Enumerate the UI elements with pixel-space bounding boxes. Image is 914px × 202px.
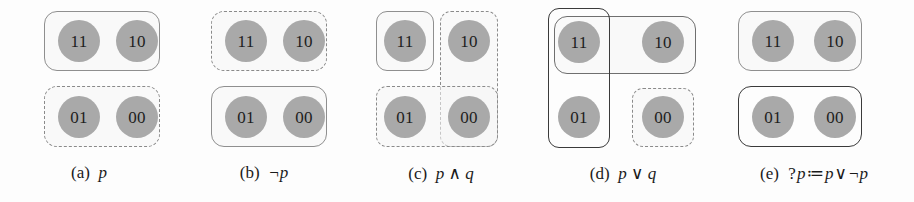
disc-label: 01 — [396, 108, 413, 125]
caption-tag: (b) — [240, 163, 260, 182]
disc-label: 00 — [460, 108, 477, 125]
disc-label: 01 — [70, 108, 87, 125]
cell-c-01: 01 — [384, 96, 426, 138]
cell-c-10: 10 — [448, 20, 490, 62]
caption-tag: (c) — [408, 164, 427, 183]
disc-10: 10 — [448, 20, 490, 62]
cell-c-00: 00 — [448, 96, 490, 138]
cell-e-00: 00 — [814, 96, 856, 138]
disc-00: 00 — [116, 96, 158, 138]
disc-11: 11 — [558, 21, 600, 63]
disc-11: 11 — [384, 20, 426, 62]
disc-11: 11 — [58, 20, 100, 62]
disc-label: 11 — [397, 32, 414, 49]
disc-01: 01 — [558, 96, 600, 138]
caption-tag: (a) — [71, 163, 90, 182]
caption-expr: p ∨ q — [618, 164, 656, 183]
disc-label: 01 — [570, 108, 587, 125]
disc-00: 00 — [283, 96, 325, 138]
panel-a: 11 10 01 00 (a) p — [0, 0, 178, 202]
caption-tag: (e) — [760, 164, 779, 183]
cell-e-01: 01 — [752, 96, 794, 138]
caption-p3: p — [860, 164, 869, 183]
caption-b: (b) ¬p — [178, 163, 350, 183]
disc-label: 00 — [128, 108, 145, 125]
cell-e-10: 10 — [814, 20, 856, 62]
cell-e-11: 11 — [752, 20, 794, 62]
disc-11: 11 — [752, 20, 794, 62]
disc-10: 10 — [116, 20, 158, 62]
caption-expr: p ∧ q — [436, 164, 474, 183]
disc-label: 10 — [128, 32, 145, 49]
disc-00: 00 — [814, 96, 856, 138]
disc-01: 01 — [225, 96, 267, 138]
disc-10: 10 — [642, 21, 684, 63]
cell-d-00: 00 — [642, 96, 684, 138]
caption-query-mark: ? — [787, 164, 797, 183]
caption-e: (e) ?p≔p∨¬p — [714, 163, 914, 184]
cell-a-11: 11 — [58, 20, 100, 62]
disc-label: 10 — [460, 32, 477, 49]
disc-label: 01 — [237, 108, 254, 125]
disc-label: 10 — [295, 32, 312, 49]
caption-d: (d) p ∨ q — [532, 163, 714, 184]
disc-label: 11 — [571, 33, 588, 50]
disc-01: 01 — [384, 96, 426, 138]
panel-b: 11 10 01 00 (b) ¬p — [178, 0, 350, 202]
cell-b-10: 10 — [283, 20, 325, 62]
cell-a-01: 01 — [58, 96, 100, 138]
disc-label: 00 — [826, 108, 843, 125]
disc-label: 11 — [238, 32, 255, 49]
cell-d-11: 11 — [558, 21, 600, 63]
disc-label: 10 — [654, 33, 671, 50]
disc-01: 01 — [752, 96, 794, 138]
disc-label: 10 — [826, 32, 843, 49]
cell-b-11: 11 — [225, 20, 267, 62]
cell-d-10: 10 — [642, 21, 684, 63]
disc-00: 00 — [448, 96, 490, 138]
cell-b-01: 01 — [225, 96, 267, 138]
cell-b-00: 00 — [283, 96, 325, 138]
caption-c: (c) p ∧ q — [350, 163, 532, 184]
cell-c-11: 11 — [384, 20, 426, 62]
cell-a-10: 10 — [116, 20, 158, 62]
caption-a: (a) p — [0, 163, 178, 183]
disc-label: 11 — [765, 32, 782, 49]
panel-c: 11 10 01 00 (c) p ∧ q — [350, 0, 532, 202]
disc-11: 11 — [225, 20, 267, 62]
panel-e: 11 10 01 00 (e) ?p≔p∨¬p — [714, 0, 914, 202]
caption-or-symbol: ∨ — [833, 164, 847, 183]
disc-label: 00 — [654, 108, 671, 125]
cell-d-01: 01 — [558, 96, 600, 138]
disc-label: 00 — [295, 108, 312, 125]
caption-expr: ¬p — [268, 163, 288, 182]
figure-kripke-models: 11 10 01 00 (a) p 11 — [0, 0, 914, 202]
cell-a-00: 00 — [116, 96, 158, 138]
caption-define-symbol: ≔ — [805, 164, 825, 183]
caption-expr: p — [98, 163, 107, 182]
disc-label: 11 — [71, 32, 88, 49]
caption-tag: (d) — [590, 164, 610, 183]
panel-d: 11 10 01 00 (d) p ∨ q — [532, 0, 714, 202]
disc-label: 01 — [764, 108, 781, 125]
disc-01: 01 — [58, 96, 100, 138]
disc-10: 10 — [283, 20, 325, 62]
disc-00: 00 — [642, 96, 684, 138]
caption-neg-symbol: ¬ — [848, 164, 860, 183]
disc-10: 10 — [814, 20, 856, 62]
